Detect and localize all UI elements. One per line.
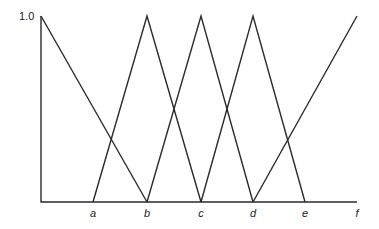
x-tick-d: d [250, 208, 256, 219]
x-tick-b: b [144, 208, 150, 219]
x-tick-f: f [355, 208, 358, 219]
triangle-b [93, 16, 201, 202]
x-tick-c: c [198, 208, 204, 219]
triangle-c [147, 16, 253, 202]
triangle-d [201, 16, 305, 202]
membership-function-plot [0, 0, 379, 229]
y-tick-label: 1.0 [19, 11, 34, 22]
x-tick-e: e [302, 208, 308, 219]
left-shoulder-line [41, 16, 147, 202]
x-tick-a: a [90, 208, 96, 219]
axes [41, 16, 357, 202]
right-shoulder-line [253, 16, 357, 202]
